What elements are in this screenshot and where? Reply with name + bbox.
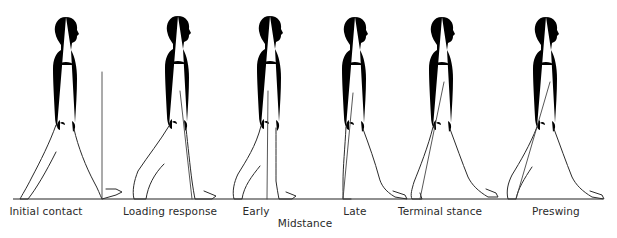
- label-midstance-early: Early: [242, 205, 269, 217]
- gait-stance-phases-diagram: Initial contact Loading response Early L…: [0, 0, 617, 238]
- label-loading-response: Loading response: [123, 205, 217, 217]
- label-terminal-stance: Terminal stance: [398, 205, 482, 217]
- figure-terminal-stance: [411, 17, 498, 199]
- figure-midstance-late: [342, 17, 407, 199]
- gait-figures-drawing: [0, 0, 617, 238]
- label-preswing: Preswing: [532, 205, 580, 217]
- figure-preswing: [507, 17, 604, 199]
- label-midstance-late: Late: [343, 205, 366, 217]
- label-initial-contact: Initial contact: [9, 205, 82, 217]
- figure-loading-response: [133, 16, 216, 199]
- label-midstance-group: Midstance: [278, 217, 332, 229]
- figure-midstance-early: [233, 16, 296, 199]
- figure-initial-contact: [20, 17, 122, 199]
